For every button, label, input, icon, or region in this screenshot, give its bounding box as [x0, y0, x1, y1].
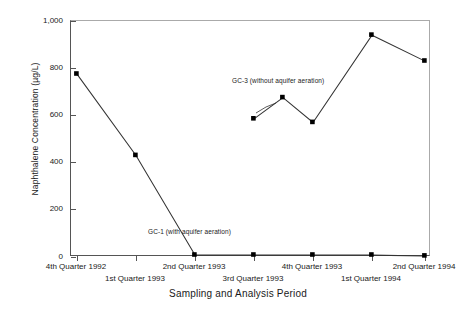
x-tick-label-q2-1994: 2nd Quarter 1994	[393, 262, 456, 271]
x-tick-label-q1-1994: 1st Quarter 1994	[341, 274, 401, 283]
series-gc3-marker	[74, 71, 79, 76]
x-tick-label-q4-1992: 4th Quarter 1992	[46, 262, 106, 271]
annotation-leader-gc3	[256, 103, 276, 113]
plot-area: 0 200 400 600 800 1,000	[70, 20, 430, 256]
y-tick-label: 800	[50, 63, 63, 72]
x-tick-label-q1-1993: 1st Quarter 1993	[105, 274, 165, 283]
series-gc3-marker	[280, 95, 285, 100]
x-tick-label-q3-1993: 3rd Quarter 1993	[223, 274, 284, 283]
series-gc3-marker	[251, 116, 256, 121]
series-gc1-marker	[251, 252, 256, 257]
y-tick-label: 0	[59, 252, 63, 261]
x-tick-label-q2-1993: 2nd Quarter 1993	[163, 262, 226, 271]
series-gc1-line	[195, 255, 425, 256]
annotation-gc1: GC-1 (with aquifer aeration)	[148, 228, 231, 235]
series-gc3-marker	[422, 58, 427, 63]
series-gc3-marker	[310, 120, 315, 125]
series-gc1-marker	[422, 253, 427, 258]
series-gc1-marker	[310, 252, 315, 257]
x-tick-label-q4-1993: 4th Quarter 1993	[282, 262, 342, 271]
x-axis-label: Sampling and Analysis Period	[0, 288, 476, 299]
annotation-gc3: GC-3 (without aquifer aeration)	[232, 77, 324, 84]
series-gc3-marker	[369, 32, 374, 37]
series-gc1-marker	[192, 252, 197, 257]
chart-figure: Naphthalene Concentration (µg/L) 0 200 4…	[0, 0, 476, 312]
y-tick-label: 400	[50, 157, 63, 166]
y-tick-label: 200	[50, 204, 63, 213]
y-tick-label: 1,000	[43, 16, 63, 25]
series-gc3-marker	[133, 153, 138, 158]
chart-data-layer	[71, 21, 431, 257]
series-gc1-marker	[369, 252, 374, 257]
y-tick-label: 600	[50, 110, 63, 119]
y-axis-label: Naphthalene Concentration (µg/L)	[30, 19, 40, 239]
